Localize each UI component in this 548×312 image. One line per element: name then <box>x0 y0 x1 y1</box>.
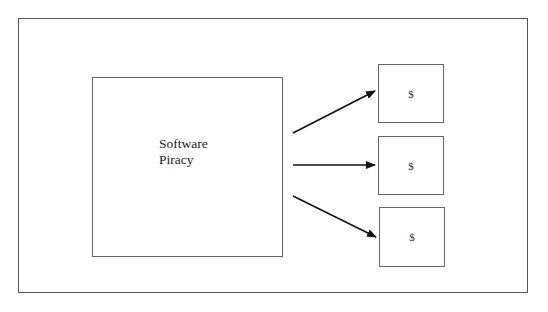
arrows-layer <box>0 0 548 312</box>
arrow-up-right-icon <box>293 91 375 133</box>
arrow-down-right-icon <box>293 196 376 237</box>
